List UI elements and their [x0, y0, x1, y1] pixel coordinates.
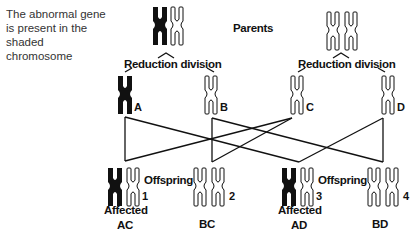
offspring-2-chromosome-icon: [194, 168, 206, 206]
offspring-4-chromosome-icon: [386, 168, 398, 206]
offspring-4-genotype: BD: [372, 218, 388, 230]
reduction-division-left: Reduction division: [124, 58, 221, 70]
offspring-1-status: Affected: [104, 204, 148, 216]
offspring-1-number: 1: [142, 190, 148, 202]
offspring-2-number: 2: [229, 190, 235, 202]
gamete-a-chromosome-icon: [118, 76, 132, 114]
shaded-chromosome-icon: [153, 7, 167, 45]
offspring-1-label: Offspring: [144, 174, 193, 186]
offspring-1-shaded-chromosome-icon: [108, 168, 122, 206]
offspring-1-open-chromosome-icon: [127, 168, 139, 206]
offspring-4-chromosome-icon: [368, 168, 380, 206]
offspring-2-chromosome-icon: [212, 168, 224, 206]
offspring-3-genotype: AD: [291, 219, 307, 231]
offspring-2-genotype: BC: [199, 218, 215, 230]
parent-2-chromosomes: [327, 12, 357, 50]
offspring-1-genotype: AC: [117, 219, 133, 231]
offspring-3-status: Affected: [278, 204, 322, 216]
gamete-label-c: C: [306, 101, 314, 113]
gamete-label-b: B: [220, 101, 228, 113]
gamete-label-d: D: [397, 101, 405, 113]
open-chromosome-icon: [171, 7, 183, 45]
open-chromosome-icon: [345, 12, 357, 50]
reduction-division-right: Reduction division: [298, 58, 395, 70]
offspring-3-open-chromosome-icon: [301, 168, 313, 206]
gamete-label-a: A: [134, 101, 142, 113]
inheritance-diagram: [0, 0, 415, 234]
gamete-b-chromosome-icon: [205, 76, 217, 114]
parent-1-chromosomes: [153, 7, 183, 45]
offspring-3-label: Offspring: [318, 174, 367, 186]
offspring-3-shaded-chromosome-icon: [282, 168, 296, 206]
parents-label: Parents: [233, 22, 273, 34]
open-chromosome-icon: [327, 12, 339, 50]
offspring-4-number: 4: [403, 190, 409, 202]
gamete-d-chromosome-icon: [382, 76, 394, 114]
gamete-c-chromosome-icon: [291, 76, 303, 114]
offspring-3-number: 3: [316, 190, 322, 202]
